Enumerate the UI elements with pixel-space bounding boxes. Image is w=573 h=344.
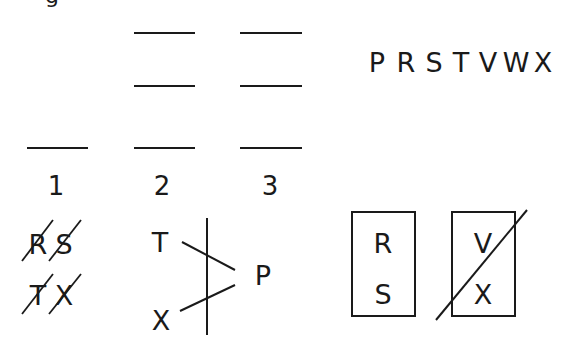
box-rs: R S <box>352 212 415 316</box>
pool-letter-w: W <box>503 47 530 78</box>
pool-letter-r: R <box>397 47 416 78</box>
diagram-canvas: g 1 2 3 P R S T V W X R S T X T <box>0 0 573 344</box>
slot-2-label: 2 <box>154 171 171 201</box>
slot-group-2: 2 <box>134 33 195 201</box>
branch-letter-x: X <box>152 305 171 336</box>
branch-letter-p: P <box>255 260 271 291</box>
box-rs-letter-s: S <box>374 279 391 310</box>
slot-3-label: 3 <box>262 171 279 201</box>
pool-letter-s: S <box>425 47 442 78</box>
branch-connector-top <box>182 242 235 270</box>
branch-letter-t: T <box>151 227 169 258</box>
pool-letter-x: X <box>534 47 553 78</box>
slot-group-1: 1 <box>27 148 88 201</box>
pool-letter-v: V <box>479 47 498 78</box>
cropped-text-fragment: g <box>45 0 59 8</box>
crossed-letter-r: R <box>29 229 48 260</box>
slot-1-label: 1 <box>48 171 65 201</box>
crossed-pairs: R S T X <box>22 220 81 314</box>
pool-letter-p: P <box>369 47 385 78</box>
box-vx: V X <box>436 210 527 320</box>
branch-diagram: T X P <box>151 218 271 336</box>
slot-group-3: 3 <box>240 33 302 201</box>
box-vx-letter-x: X <box>474 279 493 310</box>
box-rs-letter-r: R <box>374 228 393 259</box>
letter-pool: P R S T V W X <box>369 47 552 78</box>
pool-letter-t: T <box>452 47 470 78</box>
